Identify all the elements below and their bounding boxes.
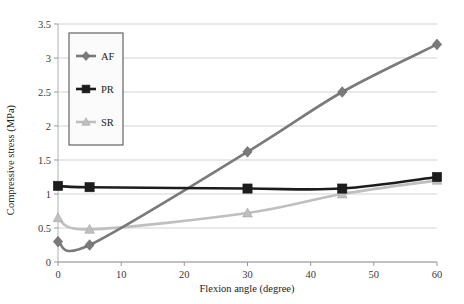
x-axis-title: Flexion angle (degree) xyxy=(199,283,295,295)
x-axis-ticks: 0102030405060 xyxy=(55,262,442,280)
x-tick-label: 20 xyxy=(179,269,190,280)
y-tick-label: 2.5 xyxy=(38,87,51,98)
legend-label: PR xyxy=(101,84,114,95)
x-tick-label: 50 xyxy=(369,269,380,280)
y-axis-ticks: 00.511.522.533.5 xyxy=(38,19,58,268)
x-tick-label: 30 xyxy=(242,269,253,280)
data-point-marker xyxy=(243,184,252,193)
x-tick-label: 60 xyxy=(432,269,443,280)
y-tick-label: 2 xyxy=(46,121,51,132)
compressive-stress-line-chart: 0102030405060 00.511.522.533.5 AFPRSR Fl… xyxy=(0,0,464,304)
data-point-marker xyxy=(338,87,347,98)
chart-legend: AFPRSR xyxy=(69,33,123,145)
y-tick-label: 0 xyxy=(46,257,51,268)
data-point-marker xyxy=(53,181,62,190)
data-point-marker xyxy=(82,85,90,93)
data-point-marker xyxy=(338,184,347,193)
data-point-marker xyxy=(85,183,94,192)
data-point-marker xyxy=(85,240,94,251)
data-point-marker xyxy=(53,213,63,222)
series-pr xyxy=(53,172,441,193)
data-point-marker xyxy=(243,147,252,158)
legend-label: SR xyxy=(101,117,114,128)
y-tick-label: 0.5 xyxy=(38,223,51,234)
legend-label: AF xyxy=(101,51,115,62)
data-point-marker xyxy=(432,39,441,50)
data-point-marker xyxy=(432,172,441,181)
y-tick-label: 1.5 xyxy=(38,155,51,166)
y-tick-label: 3 xyxy=(46,53,51,64)
y-tick-label: 1 xyxy=(46,189,51,200)
y-axis-title: Compressive stress (MPa) xyxy=(5,104,17,215)
figure-container: 0102030405060 00.511.522.533.5 AFPRSR Fl… xyxy=(0,0,464,304)
x-tick-label: 40 xyxy=(305,269,316,280)
x-tick-label: 10 xyxy=(116,269,127,280)
y-tick-label: 3.5 xyxy=(38,19,51,30)
x-tick-label: 0 xyxy=(55,269,60,280)
